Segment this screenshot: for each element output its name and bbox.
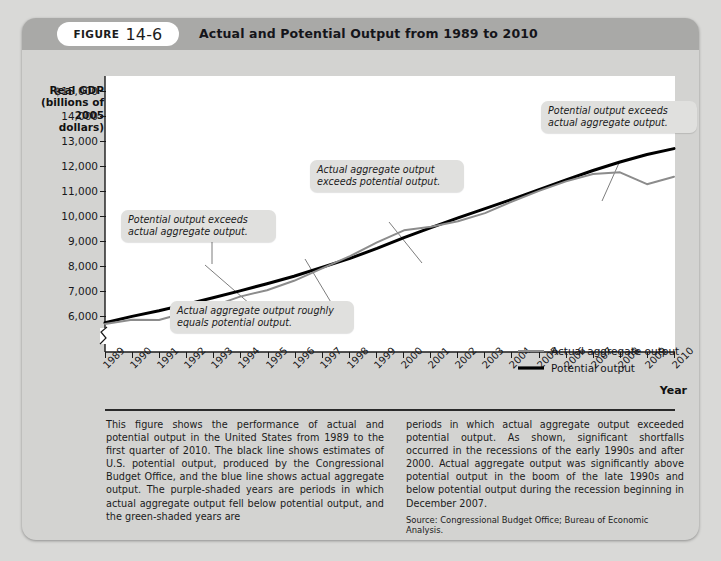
caption-text-left: This figure shows the performance of act… (106, 418, 384, 523)
caption-column-left: This figure shows the performance of act… (106, 418, 384, 530)
axis-break-icon (100, 327, 111, 344)
chart-legend: Actual aggregate output Potential output (518, 342, 679, 376)
legend-item-potential: Potential output (518, 359, 679, 376)
figure-title: Actual and Potential Output from 1989 to… (199, 26, 538, 41)
x-axis-title: Year (660, 384, 687, 397)
annot-potential-exceeds-left: Potential output exceeds actual aggregat… (121, 210, 276, 242)
caption-text-right: periods in which actual aggregate output… (406, 418, 684, 510)
figure-card: FIGURE 14-6 Actual and Potential Output … (22, 18, 699, 540)
caption-divider (105, 409, 675, 411)
legend-label-potential: Potential output (551, 362, 635, 374)
caption-column-right: periods in which actual aggregate output… (406, 418, 684, 530)
figure-caption: This figure shows the performance of act… (106, 418, 684, 530)
caption-source: Source: Congressional Budget Office; Bur… (406, 515, 684, 536)
figure-number-pill: FIGURE 14-6 (57, 22, 179, 46)
legend-label-actual: Actual aggregate output (551, 345, 679, 357)
annot-roughly-equal: Actual aggregate output roughly equals p… (170, 301, 354, 333)
legend-item-actual: Actual aggregate output (518, 342, 679, 359)
legend-swatch-potential (518, 362, 544, 374)
figure-label: FIGURE (73, 28, 119, 40)
annot-potential-exceeds-right: Potential output exceeds actual aggregat… (541, 101, 697, 133)
annot-actual-exceeds: Actual aggregate output exceeds potentia… (310, 160, 464, 192)
figure-header-bar: FIGURE 14-6 Actual and Potential Output … (22, 18, 699, 50)
legend-swatch-actual (518, 345, 544, 357)
figure-number: 14-6 (125, 25, 162, 44)
chart-block: Real GDP (billions of 2005 dollars) $15,… (22, 50, 699, 410)
